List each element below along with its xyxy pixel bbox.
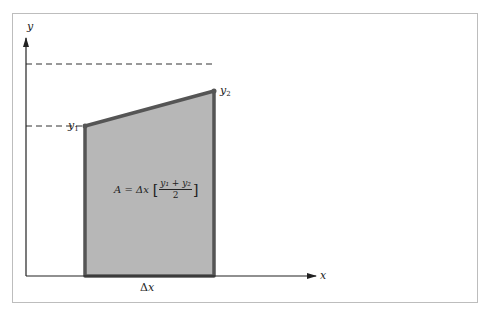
y1-point (83, 124, 88, 129)
y-axis-label: y (27, 20, 33, 33)
formula-open-bracket: [ (153, 182, 158, 198)
formula-lhs: A = Δx (114, 184, 149, 195)
trapezoid-diagram (0, 0, 489, 314)
delta-x-label: Δx (140, 281, 154, 294)
formula-numerator: y₁ + y₂ (159, 178, 192, 190)
formula-close-bracket: ] (193, 182, 198, 198)
y2-label: y2 (220, 84, 231, 98)
formula-fraction: y₁ + y₂ 2 (159, 178, 192, 201)
y2-point (212, 89, 217, 94)
y1-label: y1 (68, 119, 79, 133)
area-formula: A = Δx [ y₁ + y₂ 2 ] (114, 178, 198, 201)
x-axis-label: x (320, 269, 326, 282)
formula-denominator: 2 (173, 190, 179, 201)
